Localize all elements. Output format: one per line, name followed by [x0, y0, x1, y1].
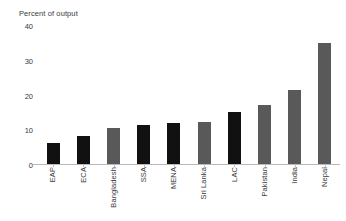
plot-area: 40 30 20 10 0: [38, 26, 340, 165]
x-axis-tick-label: India: [291, 167, 299, 184]
bar: [198, 122, 211, 164]
bar: [258, 105, 271, 164]
x-axis-label-slot: SSA: [129, 167, 159, 221]
y-axis-tick-label: 30: [25, 56, 33, 65]
x-axis-tick-label: MENA: [170, 167, 178, 189]
bar-slot: [98, 26, 128, 164]
bar-series: [38, 26, 340, 164]
bar: [228, 112, 241, 164]
x-axis-tick-label: Pakistan: [261, 167, 269, 197]
x-axis-label-slot: MENA: [159, 167, 189, 221]
x-axis-label-slot: Sri Lanka: [189, 167, 219, 221]
bar: [77, 136, 90, 164]
y-axis-tick-label: 40: [25, 22, 33, 31]
chart-title: Percent of output: [19, 9, 78, 18]
bar-slot: [310, 26, 340, 164]
bar: [47, 143, 60, 164]
x-axis-labels: EAPECABangladeshSSAMENASri LankaLACPakis…: [38, 167, 340, 221]
x-axis-tick-label: EAP: [49, 167, 57, 182]
bar: [107, 128, 120, 164]
y-axis-tick-label: 10: [25, 126, 33, 135]
y-axis-tick-label: 0: [29, 161, 33, 170]
y-axis-tick-label: 20: [25, 91, 33, 100]
x-axis-label-slot: ECA: [68, 167, 98, 221]
x-axis-tick-label: SSA: [140, 167, 148, 182]
x-axis-label-slot: Nepal: [310, 167, 340, 221]
bar: [137, 125, 150, 164]
x-axis-label-slot: India: [280, 167, 310, 221]
bar-slot: [38, 26, 68, 164]
x-axis-tick-label: Sri Lanka: [200, 167, 208, 200]
x-axis-label-slot: Bangladesh: [98, 167, 128, 221]
bar: [288, 90, 301, 164]
bar: [167, 123, 180, 164]
x-axis-label-slot: EAP: [38, 167, 68, 221]
x-axis-tick-label: Bangladesh: [110, 167, 118, 208]
bar-chart: Percent of output 40 30 20 10 0 EAPECABa…: [0, 0, 346, 221]
bar-slot: [249, 26, 279, 164]
x-axis-label-slot: Pakistan: [249, 167, 279, 221]
x-axis-tick-label: Nepal: [321, 167, 329, 187]
bar-slot: [280, 26, 310, 164]
bar-slot: [129, 26, 159, 164]
bar: [318, 43, 331, 164]
bar-slot: [68, 26, 98, 164]
bar-slot: [219, 26, 249, 164]
x-axis-tick-label: LAC: [231, 167, 239, 182]
x-axis-label-slot: LAC: [219, 167, 249, 221]
x-axis-tick-label: ECA: [80, 167, 88, 183]
bar-slot: [189, 26, 219, 164]
bar-slot: [159, 26, 189, 164]
